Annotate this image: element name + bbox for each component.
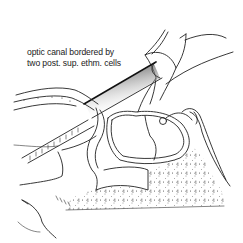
annotation-line-2: two post. sup. ethm. cells (27, 58, 121, 69)
annotation-line-1: optic canal bordered by (27, 47, 114, 58)
lower-probe (14, 120, 94, 163)
ethmoid-cell-walls (20, 108, 148, 190)
planum-bone (14, 88, 98, 110)
lower-left-structures (18, 196, 70, 238)
optic-canal-probe (84, 62, 162, 118)
cancellous-bone (66, 148, 225, 210)
anatomical-figure: optic canal bordered by two post. sup. e… (0, 0, 243, 243)
sphenoid-sinus (107, 111, 192, 163)
illustration-drawing (0, 0, 243, 243)
